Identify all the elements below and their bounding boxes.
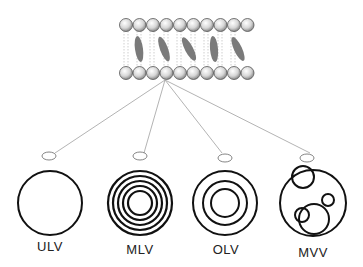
label-ulv: ULV xyxy=(20,239,80,254)
unilamellar-vesicle xyxy=(18,152,82,235)
membrane-patch-icon xyxy=(218,154,232,162)
label-mvv: MVV xyxy=(283,245,343,260)
multilamellar-vesicle xyxy=(108,152,172,235)
membrane-patch-icon xyxy=(300,154,314,162)
membrane-patch-icon xyxy=(42,152,56,160)
oligolamellar-vesicle xyxy=(193,154,257,235)
multivesicular-vesicle xyxy=(280,154,346,236)
label-mlv: MLV xyxy=(110,242,170,257)
lipid-bilayer xyxy=(120,19,255,80)
membrane-patch-icon xyxy=(133,152,147,160)
liposome-diagram xyxy=(0,0,363,267)
connector-lines xyxy=(55,80,310,153)
label-olv: OLV xyxy=(196,242,256,257)
